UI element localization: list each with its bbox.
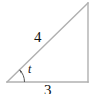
angle-label: t [28,63,31,75]
base-label: 3 [44,83,52,94]
angle-arc [20,70,25,82]
hypotenuse-label: 4 [34,30,42,45]
triangle-svg [0,0,94,94]
triangle-diagram: 4 3 t [0,0,94,94]
